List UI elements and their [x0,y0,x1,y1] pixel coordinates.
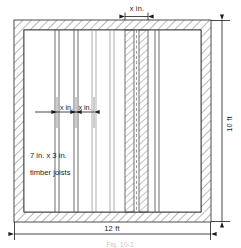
dimension-top: x in. [125,4,148,20]
joist-size-label: 7 in. x 3 in. [30,151,67,160]
figure-caption: Fig. 10-1 [106,241,134,248]
dimension-interior-right-label: x in. [78,103,91,112]
dimension-bottom-label: 12 ft [104,224,119,233]
shaded-joist [125,30,134,212]
joist-material-label: timber joists [30,168,71,177]
dimension-interior-left-label: x in. [60,103,73,112]
diagram-canvas: x in. x in. x in. 7 in. x 3 in. timber j… [0,0,241,248]
engineering-diagram: x in. x in. x in. 7 in. x 3 in. timber j… [0,0,241,248]
dimension-right-label: 10 ft [225,116,234,131]
dimension-bottom: 12 ft [14,222,211,240]
dimension-right: 10 ft [211,20,234,222]
shaded-joist [139,30,148,212]
room-interior [24,30,201,212]
dimension-top-label: x in. [130,4,145,13]
